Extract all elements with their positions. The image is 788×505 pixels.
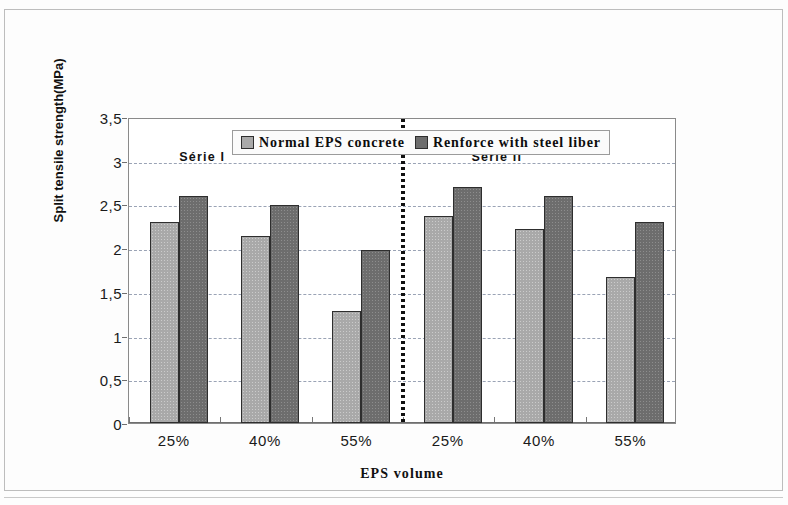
x-tick-label: 55% [340,432,372,449]
bar [424,216,453,423]
y-tick-label: 3,5 [74,110,122,127]
y-tick-mark [122,380,127,381]
legend-label-normal: Normal EPS concrete [259,135,405,151]
x-tick-label: 40% [523,432,555,449]
bar [635,222,664,423]
y-tick-label: 0 [74,416,122,433]
y-tick-label: 2,5 [74,197,122,214]
y-tick-mark [122,249,127,250]
page-border-bottom [4,497,783,498]
bar [270,205,299,423]
x-axis-line [129,422,675,423]
legend-item-normal: Normal EPS concrete [241,135,405,151]
legend-swatch-icon-normal [241,136,254,149]
series-annotation-1: Série I [179,150,225,164]
bar [150,222,179,423]
y-tick-mark [122,162,127,163]
bar [606,277,635,423]
bar [361,250,390,423]
legend-item-reinforced: Renforce with steel liber [415,135,601,151]
x-tick-label: 25% [158,432,190,449]
bar [544,196,573,423]
y-tick-mark [122,337,127,338]
bar [453,187,482,423]
y-tick-label: 2 [74,241,122,258]
x-tick-label: 25% [432,432,464,449]
y-tick-mark [122,293,127,294]
x-tick-label: 55% [614,432,646,449]
x-axis-tick-labels: 25%40%55%25%40%55% [128,432,676,454]
figure-container: Split tensile strength(MPa) 00,511,522,5… [0,0,788,505]
legend-label-reinforced: Renforce with steel liber [433,135,601,151]
x-tick-label: 40% [249,432,281,449]
bar [515,229,544,423]
y-tick-label: 1 [74,328,122,345]
x-axis-title: EPS volume [128,466,676,482]
bar [179,196,208,423]
y-tick-label: 0,5 [74,372,122,389]
series-divider [401,119,405,423]
y-tick-mark [122,205,127,206]
bar [332,311,361,423]
y-axis-tick-labels: 00,511,522,533,5 [70,118,122,424]
chart-legend: Normal EPS concrete Renforce with steel … [232,130,610,155]
y-tick-mark [122,118,127,119]
y-tick-label: 3 [74,153,122,170]
y-axis-title: Split tensile strength(MPa) [51,21,66,261]
legend-swatch-icon-reinforced [415,136,428,149]
y-tick-label: 1,5 [74,284,122,301]
bar [241,236,270,423]
plot-area: Série I Série II [128,118,676,424]
y-tick-mark [122,424,127,425]
